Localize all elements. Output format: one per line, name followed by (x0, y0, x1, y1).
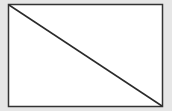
diagram-canvas (0, 0, 172, 111)
image-placeholder-frame (0, 0, 172, 111)
